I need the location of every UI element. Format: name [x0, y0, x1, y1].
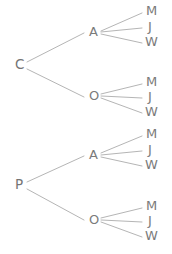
tree-edge-o-to-w: [101, 222, 142, 237]
tree-node-c-a-w: W: [145, 35, 158, 48]
tree-node-p-o: O: [89, 213, 99, 226]
tree-edge-o-to-m: [101, 84, 142, 94]
edges-group: [27, 13, 142, 237]
tree-edge-c-to-a: [27, 33, 84, 62]
tree-node-p-a-j: J: [148, 143, 152, 156]
tree-node-root-p: P: [15, 178, 23, 191]
tree-edge-o-to-m: [101, 208, 142, 218]
tree-node-c-o-w: W: [145, 105, 158, 118]
tree-node-c-a-m: M: [146, 4, 157, 17]
tree-diagram: CPAOAOMJWMJWMJWMJW: [0, 0, 172, 254]
tree-edge-a-to-m: [101, 136, 142, 153]
tree-node-p-a: A: [89, 148, 98, 161]
tree-node-c-o-m: M: [146, 75, 157, 88]
tree-node-p-o-j: J: [148, 214, 152, 227]
tree-node-p-o-w: W: [145, 229, 158, 242]
tree-node-c-a: A: [89, 25, 98, 38]
tree-edge-o-to-j: [101, 220, 142, 222]
tree-node-root-c: C: [15, 58, 24, 71]
tree-edge-p-to-o: [27, 189, 84, 220]
tree-node-c-o: O: [89, 89, 99, 102]
tree-edge-o-to-w: [101, 98, 142, 113]
tree-node-p-o-m: M: [146, 199, 157, 212]
tree-node-c-a-j: J: [148, 20, 152, 33]
tree-node-p-a-m: M: [146, 127, 157, 140]
tree-node-c-o-j: J: [148, 90, 152, 103]
tree-node-p-a-w: W: [145, 158, 158, 171]
tree-edge-p-to-a: [27, 156, 84, 182]
tree-edge-a-to-w: [101, 34, 142, 43]
tree-edge-a-to-j: [101, 151, 142, 155]
tree-edge-c-to-o: [27, 69, 84, 97]
tree-edge-o-to-j: [101, 96, 142, 98]
tree-edge-a-to-w: [101, 157, 142, 166]
